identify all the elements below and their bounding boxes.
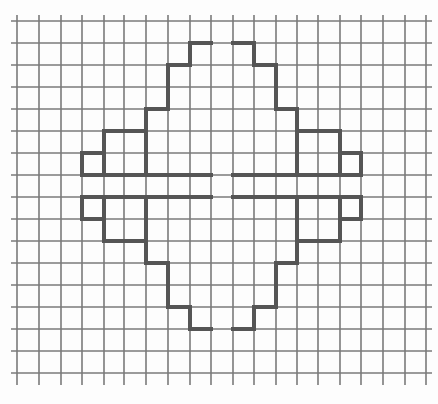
grid-paper-figure xyxy=(0,0,438,404)
paper-background xyxy=(0,0,438,404)
